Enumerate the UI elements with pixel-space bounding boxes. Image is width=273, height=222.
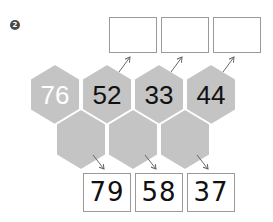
hexagon-top-3-value: 33 xyxy=(134,80,184,110)
hexagon-top-2-value: 52 xyxy=(82,80,132,110)
arrow-up-1 xyxy=(119,57,130,72)
hexagon-top-4-value: 44 xyxy=(186,80,236,110)
hexagon-top-1-value: 76 xyxy=(30,80,80,110)
bottom-answer-2-value: 58 xyxy=(141,177,176,207)
arrow-up-3 xyxy=(223,57,234,72)
arrow-up-2 xyxy=(171,57,182,72)
bottom-answer-box-2: 58 xyxy=(135,173,183,212)
bottom-answer-box-1: 79 xyxy=(83,173,131,212)
bottom-answer-box-3: 37 xyxy=(187,173,235,212)
bottom-answer-3-value: 37 xyxy=(193,177,228,207)
bottom-answer-1-value: 79 xyxy=(89,177,124,207)
